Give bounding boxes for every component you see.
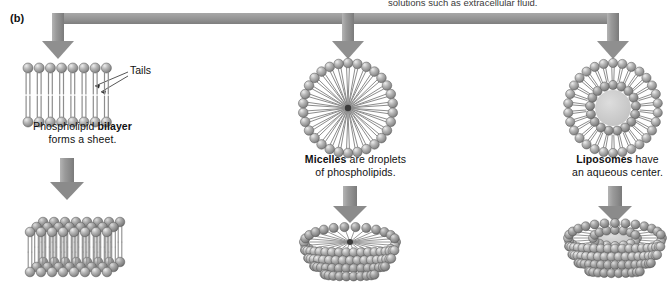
phospholipid-structures-figure: (b) solutions such as extracellular flui… bbox=[0, 0, 669, 290]
liposome-caption-bold: Liposomes bbox=[576, 153, 632, 165]
bilayer-caption: Phospholipid bilayer forms a sheet. bbox=[0, 120, 165, 145]
arrow-liposome-down bbox=[598, 186, 632, 223]
panel-tag: (b) bbox=[10, 12, 24, 24]
branch-connector-arrows bbox=[42, 13, 629, 59]
liposome-3d bbox=[564, 219, 667, 278]
tails-callout-label: Tails bbox=[130, 64, 151, 76]
micelle-caption-bold: Micelles bbox=[305, 153, 347, 165]
bilayer-caption-prefix: Phospholipid bbox=[33, 120, 97, 132]
liposome-caption-line2: an aqueous center. bbox=[530, 166, 669, 179]
micelle-caption-line2: of phospholipids. bbox=[268, 166, 443, 179]
tails-leader-lines bbox=[95, 72, 128, 95]
bilayer-caption-line1: Phospholipid bilayer bbox=[0, 120, 165, 133]
liposome-cross-section bbox=[564, 58, 663, 157]
liposome-caption-line1: Liposomes have bbox=[530, 153, 669, 166]
figure-artwork bbox=[0, 0, 669, 290]
arrow-bilayer-down bbox=[50, 158, 84, 200]
phospholipid-bilayer-cross-section bbox=[23, 63, 111, 127]
micelle-caption-line1: Micelles are droplets bbox=[268, 153, 443, 166]
bilayer-caption-bold: bilayer bbox=[97, 120, 132, 132]
liposome-caption-suffix: have bbox=[633, 153, 659, 165]
bilayer-caption-line2: forms a sheet. bbox=[0, 133, 165, 146]
arrow-micelle-down bbox=[333, 186, 367, 223]
micelle-3d bbox=[299, 223, 400, 281]
micelle-cross-section bbox=[298, 58, 397, 158]
micelle-caption-suffix: are droplets bbox=[347, 153, 407, 165]
top-caption-text: solutions such as extracellular fluid. bbox=[388, 0, 537, 8]
liposome-caption: Liposomes have an aqueous center. bbox=[530, 153, 669, 178]
phospholipid-bilayer-sheet-3d bbox=[25, 217, 125, 277]
micelle-caption: Micelles are droplets of phospholipids. bbox=[268, 153, 443, 178]
